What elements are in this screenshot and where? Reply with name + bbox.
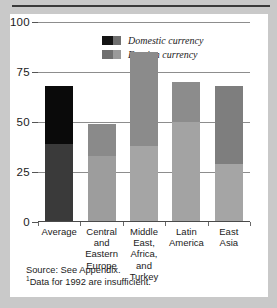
bar-segment-domestic-currency: [215, 86, 243, 164]
bar-segment-foreign-currency: [45, 144, 73, 222]
x-axis-category-label: Average: [38, 226, 80, 237]
y-axis-tick-label: 0: [23, 216, 30, 228]
y-axis-tick-label: 100: [10, 16, 30, 28]
bar-segment-domestic-currency: [130, 52, 158, 146]
chart-notes: Source: See Appendix. 1Data for 1992 are…: [26, 264, 256, 288]
bar-group: [130, 22, 158, 222]
y-axis-tick: [32, 122, 38, 123]
y-axis-tick: [32, 172, 38, 173]
chart-figure: Domestic currency Foreign currency 02550…: [0, 0, 277, 308]
footnote-text: Data for 1992 are insufficient.: [30, 277, 151, 287]
y-axis-tick: [32, 72, 38, 73]
plot-area: 0255075100: [38, 22, 250, 222]
bar-segment-foreign-currency: [215, 164, 243, 222]
x-axis-tick: [250, 222, 251, 226]
source-note: Source: See Appendix.: [26, 264, 256, 276]
bar-group: [215, 22, 243, 222]
bar-segment-foreign-currency: [88, 156, 116, 222]
top-rule-divider: [12, 5, 270, 7]
x-axis-category-label: EastAsia: [208, 226, 250, 248]
bar-group: [88, 22, 116, 222]
y-axis-tick-label: 75: [17, 66, 30, 78]
bar-segment-domestic-currency: [172, 82, 200, 122]
bar-segment-domestic-currency: [88, 124, 116, 156]
bar-segment-domestic-currency: [45, 86, 73, 144]
x-axis-category-label: LatinAmerica: [165, 226, 207, 248]
bar-group: [45, 22, 73, 222]
x-axis-line: [38, 221, 250, 223]
y-axis-tick-label: 50: [17, 116, 30, 128]
bar-group: [172, 22, 200, 222]
bar-segment-foreign-currency: [172, 122, 200, 222]
chart-panel: Domestic currency Foreign currency 02550…: [10, 14, 268, 297]
footnote: 1Data for 1992 are insufficient.: [26, 276, 256, 288]
bar-segment-foreign-currency: [130, 146, 158, 222]
y-axis-tick: [32, 22, 38, 23]
y-axis-tick-label: 25: [17, 166, 30, 178]
